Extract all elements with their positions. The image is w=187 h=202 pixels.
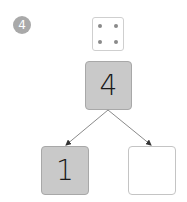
part-box-right-answer[interactable] bbox=[128, 146, 176, 195]
part-box-left: 1 bbox=[41, 146, 89, 195]
part-value-left: 1 bbox=[56, 157, 74, 185]
arrow-left-icon bbox=[66, 110, 108, 145]
arrow-right-icon bbox=[108, 110, 151, 145]
